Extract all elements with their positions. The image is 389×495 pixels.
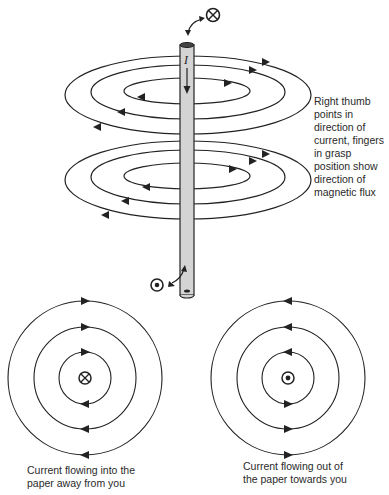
note-line: direction of [314, 121, 384, 134]
note-line: current, fingers [314, 134, 384, 147]
note-line: direction of [314, 173, 384, 186]
caption-into-page: Current flowing into the paper away from… [27, 464, 177, 490]
out-of-page-symbol-right [282, 372, 294, 384]
caption-line: the paper towards you [243, 473, 389, 486]
note-line: magnetic flux [314, 186, 384, 199]
caption-line: Current flowing out of [243, 460, 389, 473]
note-line: position show [314, 160, 384, 173]
note-line: in grasp [314, 147, 384, 160]
into-page-symbol-top [207, 9, 220, 22]
into-page-symbol-left [79, 372, 91, 384]
caption-out-of-page: Current flowing out of the paper towards… [243, 460, 389, 486]
out-of-page-symbol-bottom [151, 279, 163, 291]
curved-arrow-top [185, 16, 205, 36]
note-line: points in [314, 108, 384, 121]
note-line: Right thumb [314, 95, 384, 108]
caption-line: paper away from you [27, 477, 177, 490]
right-hand-rule-note: Right thumb points in direction of curre… [314, 95, 384, 199]
caption-line: Current flowing into the [27, 464, 177, 477]
